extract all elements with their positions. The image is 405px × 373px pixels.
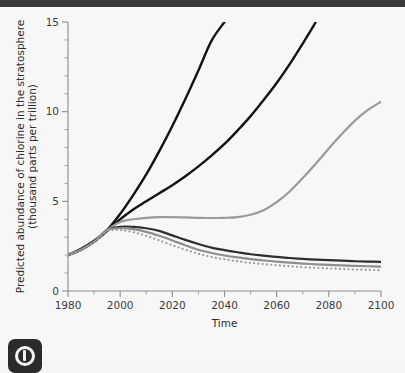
badge-bar bbox=[23, 350, 26, 361]
x-tick-label: 2020 bbox=[159, 299, 186, 311]
x-tick-label: 2000 bbox=[107, 299, 134, 311]
chart-figure: 0510151980200020202040206020802100TimePr… bbox=[0, 7, 405, 365]
y-axis-title-line2: (thousand parts per trillion) bbox=[26, 84, 38, 229]
series-line-copenhagen-1992 bbox=[68, 226, 381, 261]
y-tick-label: 0 bbox=[52, 285, 59, 297]
y-axis-title-line1: Predicted abundance of chlorine in the s… bbox=[14, 20, 26, 293]
y-tick-label: 10 bbox=[46, 105, 59, 117]
x-axis-title: Time bbox=[211, 317, 238, 329]
x-tick-label: 2100 bbox=[368, 299, 395, 311]
series-line-london-1990 bbox=[68, 102, 381, 255]
x-tick-label: 2080 bbox=[315, 299, 342, 311]
top-bar bbox=[0, 0, 405, 7]
y-tick-label: 15 bbox=[46, 16, 59, 28]
copyright-badge-icon bbox=[8, 339, 42, 373]
y-tick-label: 5 bbox=[52, 195, 59, 207]
series-line-no-protocol bbox=[68, 22, 225, 255]
x-tick-label: 2040 bbox=[211, 299, 238, 311]
chart-svg: 0510151980200020202040206020802100TimePr… bbox=[0, 7, 405, 365]
x-tick-label: 1980 bbox=[55, 299, 82, 311]
series-line-montreal-1987 bbox=[68, 22, 316, 255]
x-tick-label: 2060 bbox=[263, 299, 290, 311]
